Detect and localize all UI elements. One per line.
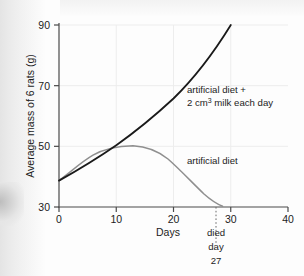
x-tick-label-10: 10: [110, 213, 122, 225]
died-note-line2: day: [208, 241, 224, 252]
x-tick-label-20: 20: [168, 213, 180, 225]
y-tick-label-30: 30: [38, 201, 50, 213]
y-tick-label-50: 50: [38, 140, 50, 152]
y-axis-ticks: [54, 25, 59, 207]
x-tick-label-40: 40: [282, 213, 294, 225]
grid-lines: [59, 25, 288, 207]
y-tick-label-90: 90: [38, 19, 50, 31]
x-tick-label-30: 30: [225, 213, 237, 225]
series-label-milk-line2: 2 cm3 milk each day: [187, 97, 273, 109]
x-axis-title: Days: [156, 226, 180, 238]
series-label-milk-line1: artificial diet +: [187, 84, 246, 95]
died-note-line3: 27: [211, 255, 222, 266]
x-tick-label-0: 0: [56, 213, 62, 225]
y-axis-title: Average mass of 6 rats (g): [24, 54, 36, 178]
died-note-line1: died: [207, 227, 225, 238]
series-label-artificial-diet: artificial diet: [187, 155, 238, 166]
y-tick-label-70: 70: [38, 80, 50, 92]
series-label-milk-prefix: 2 cm: [187, 97, 208, 108]
rat-growth-chart: 30 50 70 90 0 10 20 30 40 Average mass o…: [0, 0, 304, 276]
series-label-milk-suffix: milk each day: [212, 97, 274, 108]
figure-page: 30 50 70 90 0 10 20 30 40 Average mass o…: [0, 0, 304, 276]
x-axis-ticks: [59, 207, 288, 212]
